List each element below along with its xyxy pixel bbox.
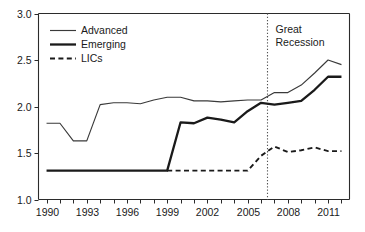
chart-legend: Advanced Emerging LICs: [50, 24, 128, 64]
recession-annotation-line: Great: [276, 23, 302, 35]
y-tick-label: 2.5: [17, 54, 32, 66]
annotation-layer: GreatRecession: [268, 14, 325, 200]
series-layer: [47, 60, 342, 171]
recession-annotation-line: Recession: [276, 36, 325, 48]
x-tick-label: 1996: [116, 206, 140, 218]
chart-container: 1.01.52.02.53.0 199019931996199920022005…: [0, 0, 365, 232]
x-tick-label: 1993: [76, 206, 100, 218]
series-line-lics: [167, 146, 341, 170]
line-chart: 1.01.52.02.53.0 199019931996199920022005…: [0, 0, 365, 232]
x-tick-label: 2008: [277, 206, 301, 218]
x-tick-label: 1990: [36, 206, 60, 218]
x-axis-tick-labels: 19901993199619992002200520082011: [36, 206, 340, 218]
legend-label-lics: LICs: [81, 52, 103, 64]
x-tick-label: 2005: [237, 206, 261, 218]
legend-label-advanced: Advanced: [81, 24, 128, 36]
y-tick-label: 3.0: [17, 8, 32, 20]
x-axis-ticks: [48, 200, 342, 204]
series-line-emerging: [47, 77, 342, 171]
x-tick-label: 2011: [317, 206, 340, 218]
x-tick-label: 1999: [156, 206, 180, 218]
y-tick-label: 1.5: [17, 147, 32, 159]
y-axis-tick-labels: 1.01.52.02.53.0: [17, 8, 32, 206]
x-tick-label: 2002: [196, 206, 220, 218]
y-axis-ticks: [35, 15, 39, 201]
legend-label-emerging: Emerging: [81, 38, 126, 50]
y-tick-label: 1.0: [17, 194, 32, 206]
y-tick-label: 2.0: [17, 101, 32, 113]
